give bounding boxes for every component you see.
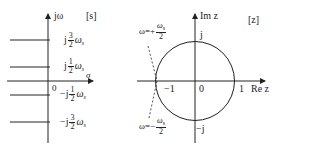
lower-dashed-line xyxy=(149,81,157,118)
top-j-label: j xyxy=(200,30,203,40)
strip-label-neg-3-2: −j32ωs xyxy=(60,114,86,131)
re-axis-label: Re z xyxy=(251,84,269,94)
s-plane-tag: [s] xyxy=(86,11,97,21)
tick-neg1-label: −1 xyxy=(164,84,175,94)
lower-omega-note: ω=−ωs2 xyxy=(139,117,167,136)
tick-pos1-label: 1 xyxy=(239,84,244,94)
im-axis-label: Im z xyxy=(200,11,218,21)
z-origin-label: 0 xyxy=(199,84,204,94)
upper-omega-note: ω=+ωs2 xyxy=(139,22,167,41)
bottom-neg-j-label: −j xyxy=(196,124,204,134)
strip-label-1-2: j12ωs xyxy=(64,58,84,75)
strip-label-3-2: j32ωs xyxy=(64,32,84,49)
z-plane-tag: [z] xyxy=(248,15,259,25)
jw-axis-label: jω xyxy=(54,11,63,21)
strip-label-neg-1-2: −j12ωs xyxy=(60,86,86,103)
sigma-axis-label: σ xyxy=(86,70,90,80)
s-origin-label: 0 xyxy=(52,83,57,93)
